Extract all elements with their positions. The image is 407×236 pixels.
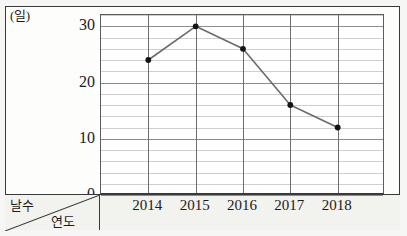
- plot-area: [100, 14, 384, 194]
- x-tick-2018: 2018: [307, 198, 367, 213]
- data-point-2016: [240, 46, 246, 52]
- axis-header-days-label: 날수: [10, 199, 33, 212]
- data-point-2015: [193, 23, 199, 29]
- data-point-2018: [335, 125, 341, 131]
- y-tick-10: 10: [35, 130, 95, 146]
- y-axis-unit-label: (일): [10, 9, 30, 22]
- data-point-2017: [287, 102, 293, 108]
- y-tick-30: 30: [35, 17, 95, 33]
- y-tick-20: 20: [35, 74, 95, 90]
- data-series-line: [101, 15, 385, 195]
- axis-header-cell: 날수 연도: [5, 194, 100, 230]
- data-point-2014: [145, 57, 151, 63]
- line-chart-figure: (일) (년) 0102030 20142015201620172018 날수 …: [0, 0, 407, 236]
- gridline-y-0: [101, 195, 383, 196]
- series-polyline: [148, 26, 337, 127]
- axis-header-year-label: 연도: [51, 215, 74, 228]
